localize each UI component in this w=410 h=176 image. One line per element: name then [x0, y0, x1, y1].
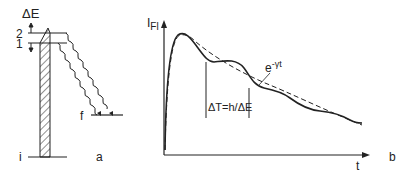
- decay-label: e-γt: [265, 59, 282, 75]
- level-1-label: 1: [16, 37, 23, 51]
- panel-a-level-scheme: ΔE 2 1 f i: [16, 6, 123, 164]
- panel-a-label: a: [96, 150, 103, 164]
- initial-level-label: i: [19, 150, 22, 164]
- delta-e-arrows: [29, 23, 33, 52]
- panel-b-label: b: [389, 150, 396, 164]
- x-axis-label: t: [356, 159, 360, 173]
- beat-period-label: ΔT=h/ΔE: [208, 101, 252, 113]
- x-axis-arrowhead: [362, 152, 370, 158]
- final-level-label: f: [80, 109, 84, 123]
- panel-b-intensity-plot: IFl t ΔT=h/ΔE e-γt b: [147, 16, 396, 173]
- y-axis-label: IFl: [147, 16, 159, 32]
- emission-wavy-arrows: [58, 33, 107, 115]
- delta-e-label: ΔE: [22, 6, 40, 21]
- y-axis-arrowhead: [161, 20, 167, 28]
- exponential-decay-curve: [165, 35, 362, 150]
- quantum-beat-curve: [165, 34, 362, 150]
- excitation-bar: [40, 28, 50, 157]
- quantum-beat-diagram: ΔE 2 1 f i: [0, 0, 410, 176]
